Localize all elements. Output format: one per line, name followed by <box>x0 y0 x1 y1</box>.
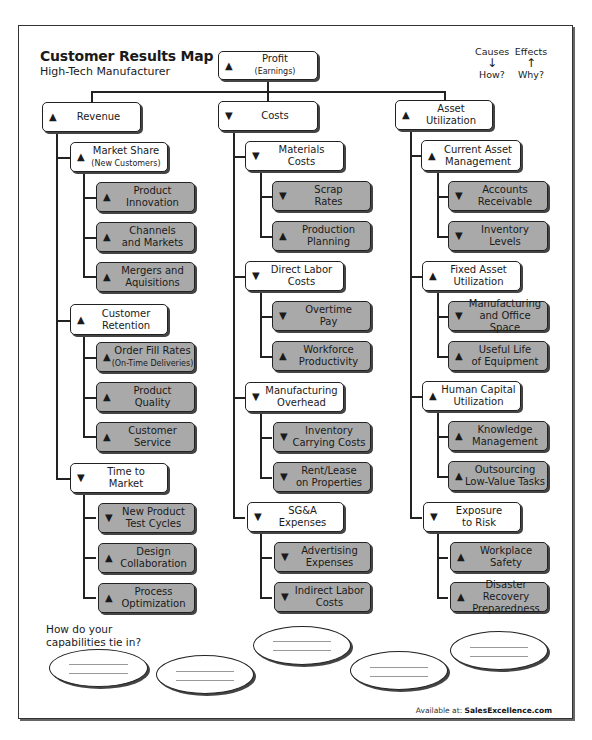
node-sublabel: Expenses <box>279 517 327 528</box>
writing-line <box>470 656 528 657</box>
question-line-1: How do your <box>46 623 112 635</box>
node-label-line2: (On-Time Deliveries) <box>112 359 194 368</box>
node-label: Advertising <box>301 545 358 556</box>
connector <box>437 291 439 357</box>
footer-site-link[interactable]: SalesExcellence.com <box>465 706 552 715</box>
connector <box>410 396 422 398</box>
connector <box>437 236 448 238</box>
triangle-up-icon: ▲ <box>103 432 111 442</box>
footer-prefix: Available at: <box>416 706 465 715</box>
connector <box>83 397 96 399</box>
connector <box>83 276 96 278</box>
triangle-up-icon: ▲ <box>429 391 437 401</box>
node-label: Revenue <box>43 111 140 123</box>
node-label: Workplace <box>480 545 532 556</box>
node-design-collaboration: ▲ DesignCollaboration <box>98 543 195 573</box>
writing-line <box>370 667 428 668</box>
connector <box>260 171 262 237</box>
node-label-line2: Pay <box>320 316 338 327</box>
triangle-up-icon: ▲ <box>49 112 57 122</box>
node-label-line2: Collaboration <box>120 558 187 569</box>
triangle-down-icon: ▼ <box>252 271 260 281</box>
triangle-up-icon: ▲ <box>279 231 287 241</box>
connector <box>56 132 58 479</box>
connector <box>260 557 272 559</box>
node-label: Rent/Lease <box>301 465 356 476</box>
node-label-line2: and Markets <box>122 237 184 248</box>
triangle-up-icon: ▲ <box>103 352 111 362</box>
node-label: Accounts <box>482 184 528 195</box>
node-outsourcing-low-value-tasks: ▲ OutsourcingLow-Value Tasks <box>448 461 548 491</box>
node-label-line2: Optimization <box>122 598 186 609</box>
connector <box>233 156 245 158</box>
node-fixed-asset-utilization: ▲ Fixed AssetUtilization <box>422 261 521 291</box>
node-customer-retention: ▲ CustomerRetention <box>70 304 168 335</box>
node-label-line2: Expenses <box>306 557 354 568</box>
page-title: Customer Results Map <box>40 48 213 64</box>
node-product-quality: ▲ ProductQuality <box>96 382 195 412</box>
triangle-up-icon: ▲ <box>455 351 463 361</box>
node-sublabel: Costs <box>288 156 315 167</box>
triangle-down-icon: ▼ <box>252 151 260 161</box>
legend-effects-question: Why? <box>518 69 544 80</box>
connector <box>437 411 439 477</box>
writing-line <box>370 676 428 677</box>
triangle-down-icon: ▼ <box>455 191 463 201</box>
node-label: Manufacturing <box>265 385 337 396</box>
node-label: Process <box>135 586 173 597</box>
writing-line <box>273 641 331 642</box>
triangle-up-icon: ▲ <box>103 272 111 282</box>
node-inventory-carrying-costs: ▼ InventoryCarrying Costs <box>273 422 371 452</box>
triangle-down-icon: ▼ <box>105 513 113 523</box>
connector <box>233 131 235 517</box>
writing-line <box>69 664 127 665</box>
triangle-up-icon: ▲ <box>105 553 113 563</box>
arrow-down-icon: ↓ <box>475 57 509 69</box>
connector <box>91 91 93 102</box>
node-label-line2: Service <box>134 437 171 448</box>
node-scrap-rates: ▼ ScrapRates <box>272 181 371 211</box>
triangle-down-icon: ▼ <box>279 311 287 321</box>
triangle-up-icon: ▲ <box>428 151 436 161</box>
node-customer-service: ▲ CustomerService <box>96 422 195 452</box>
connector <box>410 517 422 519</box>
connector <box>437 476 448 478</box>
capability-oval-2[interactable] <box>156 655 254 694</box>
node-accounts-receivable: ▼ AccountsReceivable <box>448 181 548 211</box>
node-sublabel: Utilization <box>453 396 503 407</box>
node-channels-and-markets: ▲ Channelsand Markets <box>96 222 195 252</box>
node-disaster-recovery-preparedness: ▲ Disaster RecoveryPreparedness <box>450 582 548 612</box>
capabilities-question: How do your capabilities tie in? <box>46 623 141 649</box>
connector <box>437 196 448 198</box>
capability-oval-5[interactable] <box>450 631 548 670</box>
node-workplace-safety: ▲ WorkplaceSafety <box>450 542 548 572</box>
triangle-up-icon: ▲ <box>103 192 111 202</box>
node-label-line2: Low-Value Tasks <box>465 476 545 487</box>
node-market-share: ▲ Market Share(New Customers) <box>70 142 168 172</box>
node-sublabel: Utilization <box>453 276 503 287</box>
connector <box>233 276 245 278</box>
node-profit: ▲ Profit(Earnings) <box>218 51 318 80</box>
node-sublabel: (New Customers) <box>91 159 160 168</box>
connector <box>56 157 70 159</box>
triangle-down-icon: ▼ <box>252 392 260 402</box>
node-label: Time to <box>107 466 145 477</box>
node-label: Scrap <box>314 184 342 195</box>
connector <box>260 437 272 439</box>
node-sublabel: Management <box>445 156 511 167</box>
node-label-line2: Test Cycles <box>126 518 181 529</box>
connector <box>83 237 96 239</box>
triangle-up-icon: ▲ <box>105 593 113 603</box>
node-label-line2: Innovation <box>126 197 179 208</box>
node-sublabel: (Earnings) <box>255 67 296 76</box>
capability-oval-3[interactable] <box>253 626 351 665</box>
node-label: Market Share <box>93 145 159 156</box>
connector <box>83 357 96 359</box>
capability-oval-4[interactable] <box>350 651 448 690</box>
node-label-line2: Productivity <box>299 356 358 367</box>
capability-oval-1[interactable] <box>49 649 148 687</box>
node-sublabel: Overhead <box>277 397 326 408</box>
connector <box>83 197 96 199</box>
node-label: Workforce <box>303 344 354 355</box>
node-label: Order Fill Rates <box>114 345 190 356</box>
